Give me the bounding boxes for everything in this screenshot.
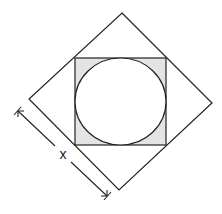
- inscribed-circle: [75, 58, 166, 145]
- dimension-label-x: x: [60, 146, 67, 162]
- geometry-diagram: x: [0, 0, 222, 214]
